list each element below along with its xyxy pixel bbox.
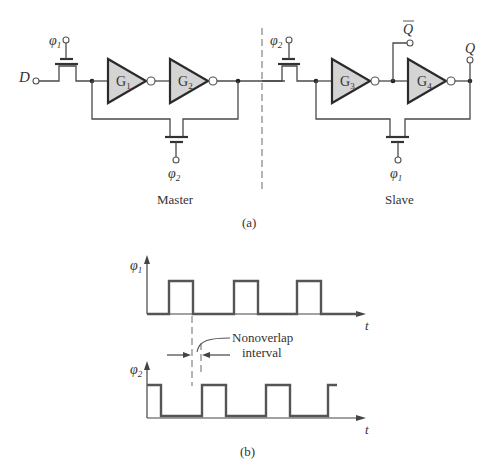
q-bar-output-terminal [407, 40, 413, 46]
phi1-waveform [147, 281, 358, 314]
leader-line [197, 338, 230, 352]
phi1-waveform-plot: φ1 t [130, 255, 369, 333]
caption-a: (a) [242, 215, 256, 230]
slave-label: Slave [385, 192, 414, 207]
master-input-transistor: φ1 [39, 33, 92, 81]
master-label: Master [157, 192, 194, 207]
nonoverlap-label-line2: interval [242, 345, 282, 360]
q-bar-output-label: Q [403, 22, 413, 37]
nonoverlap-annotation: Nonoverlap interval [167, 316, 293, 386]
phi2-t-axis-arrow [356, 415, 366, 421]
left-arrowhead [183, 352, 191, 358]
phi1-clock-terminal [63, 37, 69, 43]
caption-b: (b) [240, 444, 255, 459]
d-input-label: D [18, 69, 30, 85]
gate-g4: G4 [408, 59, 455, 103]
phi1-y-axis-arrow [144, 255, 150, 264]
phi2-axis-label: φ2 [130, 362, 143, 379]
q-output-terminal [467, 57, 473, 63]
phi1-t-label: t [365, 318, 369, 333]
phi2-waveform-plot: φ2 t [130, 361, 369, 437]
phi2-clock-label: φ2 [168, 166, 181, 183]
slave-phi1-clock-terminal [395, 157, 401, 163]
right-arrowhead [202, 352, 210, 358]
nonoverlap-label-line1: Nonoverlap [232, 330, 293, 345]
q-output-label: Q [465, 41, 475, 56]
slave-section: φ2 G3 Q G4 Q [262, 21, 475, 207]
slave-phi2-clock-label: φ2 [270, 33, 283, 50]
gate-g3: G3 [332, 59, 379, 103]
phi1-clock-label: φ1 [49, 33, 61, 50]
slave-phi1-clock-label: φ1 [390, 166, 402, 183]
gate-g2: G2 [170, 59, 217, 103]
gate-g1: G1 [108, 59, 155, 103]
slave-input-transistor: φ2 [262, 33, 316, 81]
phi2-y-axis-arrow [144, 361, 150, 370]
slave-phi2-clock-terminal [286, 37, 292, 43]
phi2-clock-terminal [173, 157, 179, 163]
phi2-t-label: t [365, 422, 369, 437]
master-section: D φ1 G1 G2 [18, 33, 285, 207]
phi1-axis-label: φ1 [130, 258, 142, 275]
d-input-terminal [33, 78, 39, 84]
master-slave-flipflop-figure: D φ1 G1 G2 [0, 0, 495, 471]
phi2-waveform [147, 385, 337, 416]
